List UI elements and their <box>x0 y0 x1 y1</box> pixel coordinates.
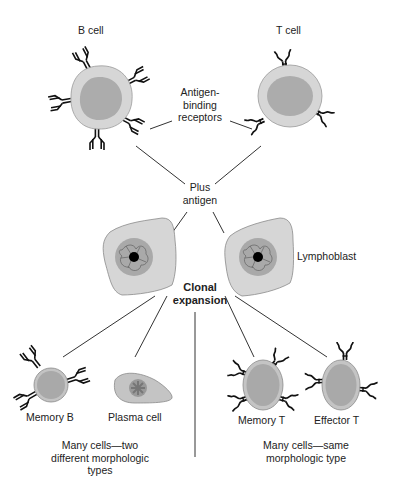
effector-t-label: Effector T <box>314 414 359 427</box>
receptors-label: Antigen- binding receptors <box>165 86 235 124</box>
right-caption: Many cells—same morphologic type <box>246 439 366 464</box>
lymphoblast-label: Lymphoblast <box>297 250 356 263</box>
effector-t-cell <box>305 342 378 410</box>
b-cell <box>48 46 150 150</box>
b-cell-label: B cell <box>78 24 104 37</box>
memory-b-cell <box>13 345 90 410</box>
plasma-cell-label: Plasma cell <box>108 411 162 424</box>
left-caption: Many cells—two different morphologic typ… <box>40 439 160 477</box>
memory-t-label: Memory T <box>238 414 285 427</box>
t-cell <box>244 49 334 135</box>
plasma-cell <box>114 373 172 403</box>
clonal-expansion-label: Clonal expansion <box>160 281 240 306</box>
memory-t-cell <box>227 348 298 412</box>
plus-antigen-label: Plus antigen <box>170 181 230 206</box>
t-cell-label: T cell <box>276 24 301 37</box>
memory-b-label: Memory B <box>26 411 74 424</box>
